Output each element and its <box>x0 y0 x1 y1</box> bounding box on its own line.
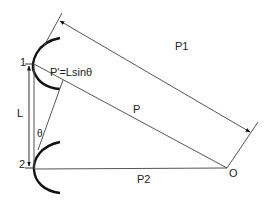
line-from-2-to-top <box>38 80 63 150</box>
label-P: P <box>133 104 140 115</box>
label-O: O <box>229 168 238 179</box>
label-point-1: 1 <box>20 57 26 68</box>
label-P2: P2 <box>137 174 150 185</box>
line-P <box>34 64 227 168</box>
label-theta: θ <box>37 129 43 139</box>
label-L: L <box>17 108 23 119</box>
line-P2 <box>34 168 227 169</box>
label-p-prime: P'=Lsinθ <box>50 67 92 78</box>
top-mirror-arc <box>33 38 60 89</box>
label-point-2: 2 <box>19 159 25 170</box>
tangent-at-O <box>227 122 258 168</box>
diagram-canvas: 1 2 L θ P'=Lsinθ P1 P P2 O <box>0 0 273 205</box>
label-P1: P1 <box>175 41 188 52</box>
